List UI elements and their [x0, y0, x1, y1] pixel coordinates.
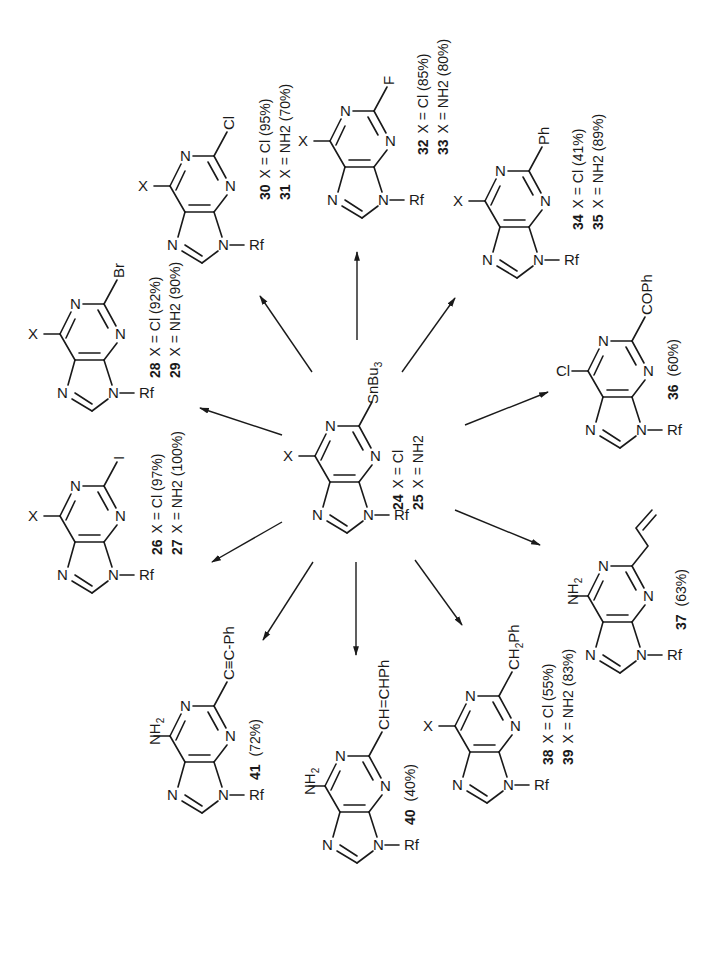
c6-substituent: X — [453, 192, 463, 209]
compound-32-33: X Rf F 32X = Cl (85%) 33X = NH2 (80%) — [298, 39, 451, 218]
arrow-to-36 — [465, 392, 548, 425]
c6-substituent: X — [298, 132, 308, 149]
compound-36: Cl Rf COPh 36(60%) — [556, 274, 683, 448]
compound-40: NH2 Rf CH=CHPh 40(40%) — [301, 660, 420, 863]
c2-substituent: CH=CHPh — [375, 660, 392, 730]
svg-text:31X = NH2 (70%): 31X = NH2 (70%) — [277, 84, 293, 200]
n9-substituent: Rf — [667, 421, 683, 438]
svg-text:39X = NH2 (83%): 39X = NH2 (83%) — [560, 649, 576, 765]
arrow-to-37 — [455, 510, 540, 545]
svg-text:36(60%): 36(60%) — [665, 339, 681, 400]
n9-substituent: Rf — [564, 251, 580, 268]
svg-text:35X = NH2 (89%): 35X = NH2 (89%) — [590, 114, 606, 230]
n9-substituent: Rf — [249, 236, 265, 253]
n9-substituent: Rf — [404, 836, 420, 853]
compound-30-31: X Rf Cl 30X = Cl (95%) 31X = NH2 (70%) — [138, 84, 293, 263]
n9-substituent: Rf — [249, 786, 265, 803]
c6-substituent: NH — [301, 773, 318, 795]
svg-text:CH2Ph: CH2Ph — [505, 624, 525, 670]
c2-substituent: Br — [110, 263, 127, 278]
n9-substituent: Rf — [534, 776, 550, 793]
arrow-to-34-35 — [402, 298, 455, 372]
compound-41: NH2 Rf C≡C-Ph 41(72%) — [146, 626, 265, 813]
arrow-to-38-39 — [415, 560, 462, 625]
c6-substituent: X — [283, 447, 293, 464]
svg-text:NH2: NH2 — [146, 717, 166, 745]
svg-text:27X = NH2 (100%): 27X = NH2 (100%) — [169, 431, 185, 555]
compound-37: NH2 Rf 37(63%) — [564, 510, 689, 673]
svg-text:26X = Cl (97%): 26X = Cl (97%) — [149, 454, 165, 555]
arrow-to-26-27 — [212, 522, 282, 562]
svg-text:41(72%): 41(72%) — [247, 719, 263, 780]
c2-substituent: CH — [505, 648, 522, 670]
compound-26-27: X Rf I 26X = Cl (97%) 27X = NH2 (100%) — [28, 431, 185, 593]
svg-text:25X = NH2: 25X = NH2 — [410, 435, 426, 510]
compound-38-39: X Rf CH2Ph 38X = Cl (55%) 39X = NH2 (83%… — [423, 624, 576, 803]
c6-substituent: X — [28, 325, 38, 342]
c2-substituent: COPh — [638, 274, 655, 315]
n9-substituent: Rf — [667, 646, 683, 663]
c6-substituent: X — [28, 507, 38, 524]
svg-text:34X = Cl (41%): 34X = Cl (41%) — [570, 129, 586, 230]
c6-substituent: X — [423, 717, 433, 734]
svg-text:30X = Cl (95%): 30X = Cl (95%) — [257, 99, 273, 200]
compound-34-35: X Rf Ph 34X = Cl (41%) 35X = NH2 (89%) — [453, 114, 606, 278]
svg-text:38X = Cl (55%): 38X = Cl (55%) — [540, 664, 556, 765]
c2-substituent: C≡C-Ph — [220, 626, 237, 680]
svg-text:40(40%): 40(40%) — [402, 764, 418, 825]
arrow-to-28-29 — [200, 408, 282, 435]
compound-28-29: X Rf Br 28X = Cl (92%) 29X = NH2 (90%) — [28, 262, 183, 411]
svg-text:37(63%): 37(63%) — [673, 569, 689, 630]
compound-24-25: X Rf SnBu3 24X = Cl 25X = NH2 — [283, 361, 426, 533]
svg-text:33X = NH2 (80%): 33X = NH2 (80%) — [435, 39, 451, 155]
n9-substituent: Rf — [139, 384, 155, 401]
c6-substituent: Cl — [556, 362, 570, 379]
n9-substituent: Rf — [409, 191, 425, 208]
svg-text:24X = Cl: 24X = Cl — [390, 450, 406, 510]
svg-text:NH2: NH2 — [301, 767, 321, 795]
c6-substituent: X — [138, 177, 148, 194]
arrow-to-41 — [263, 562, 313, 640]
c6-substituent: NH — [146, 723, 163, 745]
svg-text:SnBu3: SnBu3 — [364, 361, 384, 404]
arrow-to-30-31 — [260, 296, 312, 372]
c2-substituent: F — [380, 76, 397, 85]
svg-text:29X = NH2 (90%): 29X = NH2 (90%) — [167, 262, 183, 378]
svg-text:28X = Cl (92%): 28X = Cl (92%) — [147, 277, 163, 378]
c2-substituent: SnBu — [364, 367, 381, 404]
svg-text:NH2: NH2 — [564, 577, 584, 605]
n9-substituent: Rf — [139, 566, 155, 583]
c2-substituent: Ph — [535, 127, 552, 145]
c6-substituent: NH — [564, 583, 581, 605]
svg-text:32X = Cl (85%): 32X = Cl (85%) — [415, 54, 431, 155]
reaction-scheme: N N N N X Rf SnBu3 24X = Cl 25 — [0, 0, 717, 959]
c2-substituent: Cl — [220, 116, 237, 130]
c2-substituent: I — [110, 456, 127, 460]
